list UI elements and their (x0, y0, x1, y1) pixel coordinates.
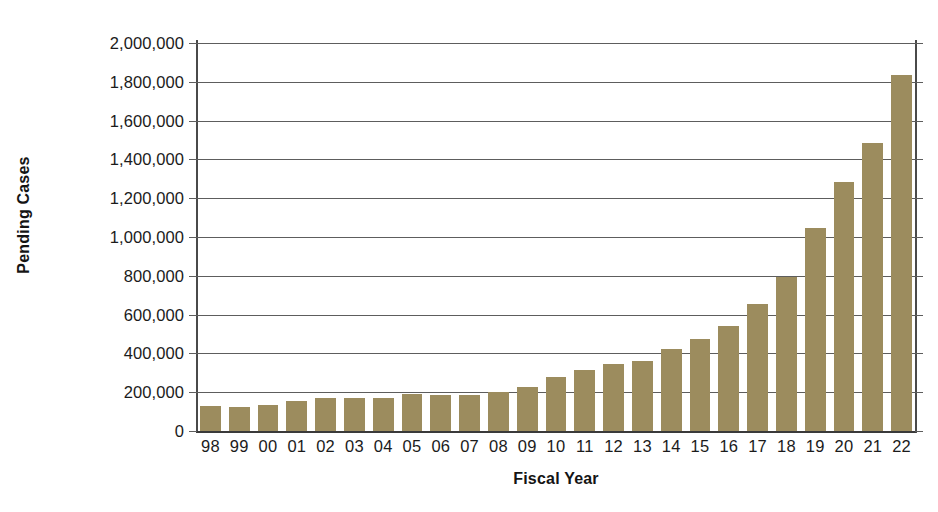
gridline (196, 431, 916, 433)
bar (459, 395, 480, 431)
bar (690, 339, 711, 431)
x-axis-tick-label: 20 (835, 437, 854, 456)
x-axis-tick-label: 01 (287, 437, 306, 456)
bar (373, 398, 394, 431)
y-axis-tick-right (915, 431, 923, 432)
bar (574, 370, 595, 431)
bar (632, 361, 653, 431)
y-axis-tick-label: 1,600,000 (110, 111, 184, 130)
x-axis-tick-label: 00 (259, 437, 278, 456)
x-axis-tick-label: 09 (518, 437, 537, 456)
bar (517, 387, 538, 431)
x-axis-tick-label: 10 (547, 437, 566, 456)
y-axis-tick-right (915, 353, 923, 354)
bar (862, 143, 883, 431)
y-axis-title: Pending Cases (6, 0, 42, 430)
bars-group (196, 43, 916, 431)
x-axis-tick-label: 04 (374, 437, 393, 456)
x-axis-tick-label: 98 (201, 437, 220, 456)
bar (805, 228, 826, 431)
y-axis-tick-label: 1,400,000 (110, 150, 184, 169)
x-axis-tick-label: 19 (806, 437, 825, 456)
bar (200, 406, 221, 431)
bar (286, 401, 307, 431)
y-axis-tick (189, 431, 197, 432)
chart-page: Pending Cases 0200,000400,000600,000800,… (0, 0, 938, 512)
x-axis-tick-label: 06 (431, 437, 450, 456)
x-axis-tick-label: 13 (633, 437, 652, 456)
y-axis-tick-label: 1,800,000 (110, 72, 184, 91)
y-axis-tick-label: 2,000,000 (110, 34, 184, 53)
x-axis-tick-label: 14 (662, 437, 681, 456)
bar (747, 304, 768, 431)
bar (776, 277, 797, 431)
y-axis-tick-right (915, 198, 923, 199)
bar (661, 349, 682, 431)
x-axis-tick-label: 11 (576, 437, 594, 456)
bar (603, 364, 624, 431)
y-axis-tick-right (915, 121, 923, 122)
y-axis-tick-right (915, 159, 923, 160)
bar (258, 405, 279, 431)
plot-area: 0200,000400,000600,000800,0001,000,0001,… (196, 43, 916, 431)
x-axis-tick-label: 22 (892, 437, 911, 456)
bar (488, 392, 509, 431)
x-axis-tick-label: 02 (316, 437, 335, 456)
y-axis-tick-label: 1,000,000 (110, 228, 184, 247)
bar (315, 398, 336, 431)
bar (344, 398, 365, 431)
y-axis-tick-right (915, 237, 923, 238)
y-axis-tick-label: 0 (175, 422, 184, 441)
y-axis-tick-label: 600,000 (124, 305, 184, 324)
x-axis-tick-label: 99 (230, 437, 249, 456)
y-axis-tick-right (915, 43, 923, 44)
bar (891, 75, 912, 431)
y-axis-tick-right (915, 315, 923, 316)
bar (546, 377, 567, 431)
y-axis-title-label: Pending Cases (15, 156, 33, 273)
bar (402, 394, 423, 431)
y-axis-tick-label: 400,000 (124, 344, 184, 363)
x-axis-tick-label: 18 (777, 437, 796, 456)
y-axis-tick-right (915, 276, 923, 277)
y-axis-tick-label: 200,000 (124, 383, 184, 402)
x-axis-title: Fiscal Year (196, 470, 916, 488)
y-axis-tick-label: 800,000 (124, 266, 184, 285)
y-axis-tick-right (915, 82, 923, 83)
x-axis-tick-label: 03 (345, 437, 364, 456)
x-axis-tick-label: 05 (403, 437, 422, 456)
bar (718, 326, 739, 431)
x-axis-tick-label: 16 (719, 437, 738, 456)
y-axis-tick-right (915, 392, 923, 393)
x-axis-tick-label: 21 (863, 437, 882, 456)
x-axis-tick-label: 12 (604, 437, 623, 456)
x-axis-tick-label: 17 (748, 437, 767, 456)
x-axis-tick-label: 07 (460, 437, 479, 456)
bar (229, 407, 250, 431)
x-axis-tick-label: 08 (489, 437, 508, 456)
y-axis-tick-label: 1,200,000 (110, 189, 184, 208)
bar (834, 182, 855, 431)
bar (430, 395, 451, 431)
x-axis-tick-label: 15 (691, 437, 710, 456)
